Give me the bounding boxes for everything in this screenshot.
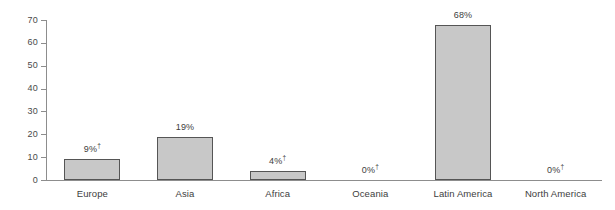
x-axis-category-label: North America — [496, 188, 615, 199]
y-axis-tick-label: 10 — [0, 153, 38, 162]
footnote-marker: † — [375, 163, 379, 170]
y-axis-tick-label-text: 40 — [4, 84, 38, 93]
bar-value-label: 0%† — [330, 166, 410, 175]
bar-chart-figure: 706050403020100 9%†19%4%†0%†68%0%† Europ… — [0, 0, 615, 210]
y-axis-tick-mark — [41, 43, 46, 44]
y-axis-tick-mark — [41, 66, 46, 67]
y-axis-tick-label: 70 — [0, 16, 38, 25]
footnote-marker: † — [282, 154, 286, 161]
y-axis-tick-label: 60 — [0, 38, 38, 47]
y-axis-tick-label-text: 10 — [4, 153, 38, 162]
y-axis-tick-mark — [41, 89, 46, 90]
y-axis-tick-label: 20 — [0, 130, 38, 139]
bar — [250, 171, 306, 180]
bar — [435, 25, 491, 180]
footnote-marker: † — [97, 142, 101, 149]
bar-value-label: 4%† — [238, 157, 318, 166]
y-axis-tick-mark — [41, 157, 46, 158]
y-axis-tick-mark — [41, 134, 46, 135]
y-axis-tick-label-text: 30 — [4, 107, 38, 116]
bar-value-label: 68% — [423, 11, 503, 20]
y-axis-tick-label-text: 60 — [4, 38, 38, 47]
y-axis-tick-label-text: 70 — [4, 16, 38, 25]
bar — [64, 159, 120, 180]
y-axis-tick-label: 0 — [0, 176, 38, 185]
plot-area: 706050403020100 9%†19%4%†0%†68%0%† Europ… — [0, 0, 615, 210]
bar — [157, 137, 213, 180]
y-axis-tick-label: 30 — [0, 107, 38, 116]
y-axis-tick-label-text: 50 — [4, 61, 38, 70]
y-axis-tick-mark — [41, 111, 46, 112]
y-axis-tick-label-text: 20 — [4, 130, 38, 139]
y-axis-tick-label-text: 0 — [4, 176, 38, 185]
y-axis-tick-mark — [41, 20, 46, 21]
bar-value-label: 9%† — [52, 145, 132, 154]
y-axis-tick-label: 40 — [0, 84, 38, 93]
footnote-marker: † — [560, 163, 564, 170]
bar-value-label: 19% — [145, 123, 225, 132]
bar-value-label: 0%† — [516, 166, 596, 175]
x-axis-line — [46, 180, 602, 181]
y-axis-tick-label: 50 — [0, 61, 38, 70]
y-axis-line — [46, 20, 47, 181]
